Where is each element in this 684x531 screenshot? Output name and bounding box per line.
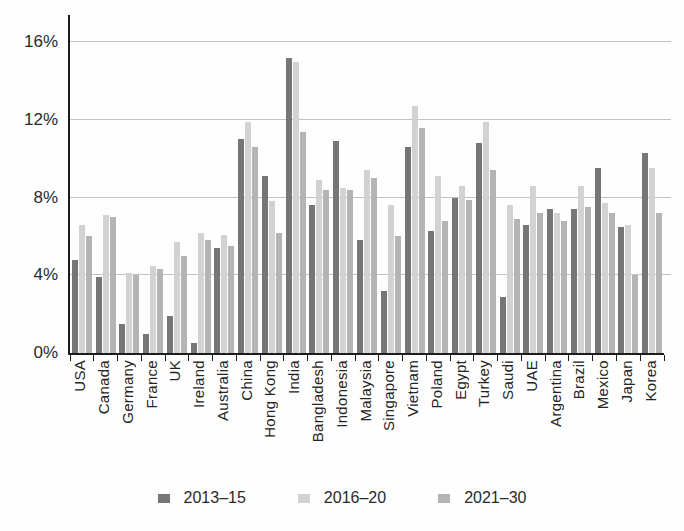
bar-korea-2016–20 [649,168,655,353]
bar-china-2016–20 [245,122,251,353]
x-axis-label-text: Ireland [190,360,207,408]
x-axis-label-text: Indonesia [333,360,350,428]
x-axis-label-text: Vietnam [404,360,421,417]
x-axis-label-poland: Poland [425,360,447,409]
x-axis-label-usa: USA [69,360,91,392]
legend-marker-icon [158,494,170,503]
x-axis-label-text: UAE [523,360,540,392]
x-axis-label-canada: Canada [93,360,115,414]
bar-group-mexico [593,15,617,353]
bar-india-2021–30 [300,132,306,353]
bar-saudi-2013–15 [500,297,506,353]
bar-uae-2021–30 [537,213,543,353]
bar-vietnam-2016–20 [412,106,418,353]
legend: 2013–152016–202021–30 [0,489,684,507]
bar-mexico-2021–30 [609,213,615,353]
bar-japan-2013–15 [618,227,624,353]
bar-group-germany [118,15,142,353]
x-axis-label-mexico: Mexico [592,360,614,409]
x-axis-label-text: Australia [214,360,231,421]
bar-singapore-2021–30 [395,236,401,353]
x-axis-tick [664,355,665,361]
bar-korea-2021–30 [656,213,662,353]
bar-group-india [284,15,308,353]
x-axis-label-text: USA [71,360,88,392]
bar-australia-2016–20 [221,235,227,353]
bar-japan-2021–30 [632,275,638,353]
bar-usa-2021–30 [86,236,92,353]
bar-group-korea [640,15,664,353]
bar-egypt-2021–30 [466,200,472,353]
bar-vietnam-2021–30 [419,128,425,353]
bar-bangladesh-2016–20 [316,180,322,353]
bar-uae-2016–20 [530,186,536,353]
bar-group-brazil [569,15,593,353]
bar-uk-2013–15 [167,316,173,353]
bar-malaysia-2021–30 [371,178,377,353]
y-axis-tick-label: 0% [0,343,58,363]
x-axis-label-text: Saudi [499,360,516,400]
y-axis-tick-label: 12% [0,110,58,130]
bar-argentina-2016–20 [554,213,560,353]
legend-marker-icon [438,494,450,503]
x-axis-label-text: Bangladesh [309,360,326,442]
bar-group-indonesia [331,15,355,353]
bar-indonesia-2013–15 [333,141,339,353]
x-axis-label-france: France [140,360,162,409]
bar-singapore-2013–15 [381,291,387,353]
bar-mexico-2016–20 [602,203,608,353]
x-axis-label-text: UK [166,360,183,381]
legend-label: 2016–20 [324,489,386,507]
x-axis-label-text: Japan [618,360,635,402]
bar-group-bangladesh [308,15,332,353]
x-axis-label-text: China [238,360,255,401]
x-axis-label-text: France [143,360,160,409]
x-axis-label-japan: Japan [615,360,637,402]
bar-uk-2021–30 [181,256,187,353]
x-axis-label-text: Malaysia [357,360,374,422]
x-axis-label-india: India [283,360,305,394]
bar-brazil-2021–30 [585,207,591,353]
x-axis-label-egypt: Egypt [449,360,471,400]
bar-india-2013–15 [286,58,292,353]
x-axis-label-germany: Germany [116,360,138,424]
x-axis-label-vietnam: Vietnam [402,360,424,417]
y-axis-tick-label: 4% [0,265,58,285]
x-axis-label-argentina: Argentina [544,360,566,427]
bar-australia-2013–15 [214,248,220,353]
x-axis-label-text: Turkey [475,360,492,407]
bar-argentina-2021–30 [561,221,567,353]
x-axis-label-malaysia: Malaysia [354,360,376,422]
legend-marker-icon [298,494,310,503]
bar-france-2021–30 [157,269,163,353]
plot-area [68,15,664,355]
x-axis-label-text: Poland [428,360,445,409]
bar-group-france [141,15,165,353]
bar-brazil-2013–15 [571,209,577,353]
legend-item-2021–30: 2021–30 [438,489,526,507]
x-axis-label-text: Hong Kong [261,360,278,438]
x-axis-label-text: Canada [95,360,112,414]
bar-group-singapore [379,15,403,353]
legend-item-2016–20: 2016–20 [298,489,386,507]
bar-australia-2021–30 [228,246,234,353]
bar-bangladesh-2013–15 [309,205,315,353]
bar-turkey-2016–20 [483,122,489,353]
y-axis-tick-label: 16% [0,32,58,52]
bar-poland-2021–30 [442,221,448,353]
x-axis-label-text: Germany [119,360,136,424]
bar-saudi-2021–30 [514,219,520,353]
x-axis-label-bangladesh: Bangladesh [306,360,328,442]
bar-singapore-2016–20 [388,205,394,353]
bar-uae-2013–15 [523,225,529,353]
x-axis-label-singapore: Singapore [378,360,400,431]
bar-india-2016–20 [293,62,299,353]
bar-egypt-2013–15 [452,198,458,353]
bar-group-ireland [189,15,213,353]
bar-group-argentina [545,15,569,353]
x-axis-label-text: Argentina [547,360,564,427]
x-axis-label-china: China [235,360,257,401]
bar-group-uk [165,15,189,353]
x-axis-label-uk: UK [164,360,186,381]
legend-label: 2013–15 [184,489,246,507]
